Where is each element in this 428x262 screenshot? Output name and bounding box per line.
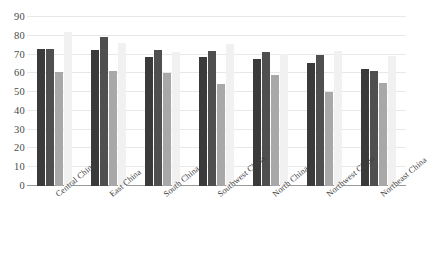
bar[interactable] (280, 54, 288, 186)
bar-group (27, 17, 81, 186)
bar-group (298, 17, 352, 186)
bar[interactable] (325, 92, 333, 186)
bar[interactable] (226, 44, 234, 186)
y-axis-tick-label: 10 (14, 162, 25, 173)
y-axis-tick-label: 70 (14, 49, 25, 60)
bar[interactable] (199, 57, 207, 186)
y-axis-tick-label: 80 (14, 31, 25, 42)
y-axis-tick-label: 40 (14, 106, 25, 117)
bar[interactable] (172, 52, 180, 186)
bar[interactable] (163, 73, 171, 186)
y-axis-tick-labels: 0102030405060708090 (0, 17, 25, 186)
bar[interactable] (388, 56, 396, 187)
bar[interactable] (217, 84, 225, 186)
bar[interactable] (307, 63, 315, 186)
y-axis-tick-label: 90 (14, 12, 25, 23)
bar[interactable] (46, 49, 54, 186)
bar[interactable] (55, 72, 63, 186)
x-axis-label-slot: North China (244, 186, 298, 262)
bar[interactable] (208, 51, 216, 186)
x-axis-label-slot: South China (135, 186, 189, 262)
x-axis-category-labels: Central ChinaEast ChinaSouth ChinaSouthw… (27, 186, 406, 262)
y-axis-tick-label: 60 (14, 68, 25, 79)
x-axis-label-slot: Northeast China (352, 186, 406, 262)
x-axis-label-slot: Northwest China (298, 186, 352, 262)
bar[interactable] (334, 51, 342, 186)
y-axis-tick-label: 30 (14, 124, 25, 135)
bar[interactable] (154, 50, 162, 186)
bar[interactable] (100, 37, 108, 186)
y-axis-tick-label: 50 (14, 87, 25, 98)
bar[interactable] (109, 71, 117, 186)
bar[interactable] (316, 55, 324, 186)
bar[interactable] (37, 49, 45, 186)
x-axis-label-slot: East China (81, 186, 135, 262)
bar[interactable] (262, 52, 270, 186)
x-axis-label-slot: Southwest China (189, 186, 243, 262)
bar[interactable] (64, 32, 72, 186)
plot-area (27, 17, 406, 186)
bar[interactable] (379, 83, 387, 186)
bar[interactable] (118, 43, 126, 186)
bar[interactable] (370, 71, 378, 186)
x-axis-label-slot: Central China (27, 186, 81, 262)
bar-group (189, 17, 243, 186)
bar[interactable] (145, 57, 153, 186)
y-axis-tick-label: 20 (14, 143, 25, 154)
y-axis-tick-label: 0 (20, 181, 25, 192)
bar-groups (27, 17, 406, 186)
bar[interactable] (271, 75, 279, 186)
bar-group (135, 17, 189, 186)
